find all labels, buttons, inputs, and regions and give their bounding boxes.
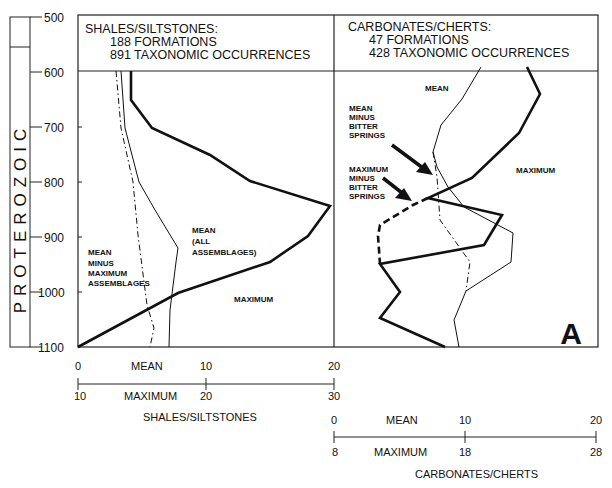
right-panel-series — [378, 67, 540, 347]
carb-max-tick-18: 18 — [459, 446, 471, 458]
label-mean-minus-2: MINUS — [88, 259, 114, 268]
left-header-title: SHALES/SILTSTONES: — [85, 22, 218, 36]
label-mbs-1: MEAN — [349, 104, 373, 113]
shales-mean-tick-10: 10 — [200, 360, 212, 372]
y-tick-700: 700 — [44, 121, 64, 135]
era-label: PROTEROZOIC — [11, 123, 30, 314]
label-xbs-2: MINUS — [349, 174, 375, 183]
y-axis: 500 600 700 800 900 1000 1100 — [30, 11, 82, 355]
y-tick-1000: 1000 — [38, 286, 65, 300]
right-panel-labels: MEAN MEAN MINUS BITTER SPRINGS MAXIMUM M… — [349, 84, 555, 201]
shales-mean-minus-max-line — [116, 71, 154, 347]
carb-max-tick-28: 28 — [590, 446, 602, 458]
label-mean-all-3: ASSEMBLAGES) — [192, 248, 257, 257]
label-mean-right: MEAN — [425, 84, 449, 93]
label-xbs-4: SPRINGS — [349, 192, 386, 201]
left-panel-header: SHALES/SILTSTONES: 188 FORMATIONS 891 TA… — [85, 22, 310, 62]
left-header-occurrences: 891 TAXONOMIC OCCURRENCES — [110, 48, 310, 62]
left-header-formations: 188 FORMATIONS — [110, 35, 217, 49]
shales-mean-tick-0: 0 — [75, 360, 81, 372]
shales-mean-tick-20: 20 — [328, 360, 340, 372]
y-tick-800: 800 — [44, 176, 64, 190]
label-mean-all-2: (ALL — [192, 237, 210, 246]
label-mean-all-1: MEAN — [192, 226, 216, 235]
carbonates-mean-line — [433, 67, 513, 347]
right-panel-arrows — [383, 145, 433, 201]
shales-max-tick-10: 10 — [74, 390, 86, 402]
shales-max-label: MAXIMUM — [124, 390, 177, 402]
y-tick-500: 500 — [44, 11, 64, 25]
carb-max-tick-8: 8 — [332, 446, 338, 458]
label-maximum-right: MAXIMUM — [516, 166, 555, 175]
label-maximum-left: MAXIMUM — [234, 295, 273, 304]
shales-mean-label: MEAN — [131, 360, 163, 372]
label-mbs-2: MINUS — [349, 113, 375, 122]
carb-mean-tick-20: 20 — [590, 414, 602, 426]
plot-frame — [78, 15, 598, 347]
shales-mean-line — [121, 71, 178, 347]
shales-axis-title: SHALES/SILTSTONES — [143, 411, 257, 423]
right-header-title: CARBONATES/CHERTS: — [348, 20, 491, 34]
label-mbs-4: SPRINGS — [349, 131, 386, 140]
label-xbs-1: MAXIMUM — [349, 165, 388, 174]
panel-letter: A — [560, 317, 582, 350]
label-mbs-3: BITTER — [349, 122, 378, 131]
shales-maximum-line — [78, 71, 330, 347]
right-header-occurrences: 428 TAXONOMIC OCCURRENCES — [369, 46, 569, 60]
label-mean-minus-4: ASSEMBLAGES — [88, 279, 150, 288]
chart-figure: PROTEROZOIC 500 600 700 800 900 1000 110… — [0, 0, 612, 488]
label-mean-minus-3: MAXIMUM — [88, 269, 127, 278]
left-panel-series — [78, 71, 330, 347]
carbonates-mean-minus-bs-line — [433, 152, 470, 291]
carb-mean-tick-0: 0 — [331, 414, 337, 426]
shales-max-tick-30: 30 — [328, 390, 340, 402]
carb-mean-tick-10: 10 — [459, 414, 471, 426]
label-mean-minus-1: MEAN — [88, 248, 112, 257]
y-tick-600: 600 — [44, 66, 64, 80]
carb-max-label: MAXIMUM — [374, 446, 427, 458]
right-header-formations: 47 FORMATIONS — [369, 33, 469, 47]
carbonates-max-minus-bs-line — [378, 198, 428, 264]
era-column: PROTEROZOIC — [10, 17, 30, 347]
shales-max-tick-20: 20 — [200, 390, 212, 402]
right-panel-header: CARBONATES/CHERTS: 47 FORMATIONS 428 TAX… — [348, 20, 569, 60]
carb-axis-title: CARBONATES/CHERTS — [415, 468, 538, 480]
label-xbs-3: BITTER — [349, 183, 378, 192]
carbonates-x-axis: 0 MEAN 10 20 8 MAXIMUM 18 28 CARBONATES/… — [331, 414, 602, 480]
y-tick-900: 900 — [44, 231, 64, 245]
shales-x-axis: 0 MEAN 10 20 10 MAXIMUM 20 30 SHALES/SIL… — [74, 360, 340, 423]
y-tick-1100: 1100 — [38, 341, 64, 355]
carb-mean-label: MEAN — [386, 414, 418, 426]
